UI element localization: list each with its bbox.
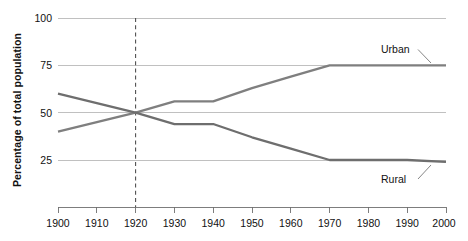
y-tick-label-25: 25 [40, 154, 52, 166]
y-tick-label-75: 75 [40, 59, 52, 71]
x-tick-label-1970: 1970 [318, 217, 342, 229]
series-label-urban: Urban [381, 43, 410, 55]
x-tick-label-1940: 1940 [202, 217, 226, 229]
chart-background [0, 0, 468, 241]
x-tick-label-1960: 1960 [279, 217, 303, 229]
x-tick-label-2000: 2000 [432, 217, 456, 229]
x-tick-label-1950: 1950 [240, 217, 264, 229]
urban-rural-line-chart: Percentage of total population 100 75 50… [0, 0, 468, 241]
series-label-rural: Rural [381, 173, 406, 185]
x-tick-label-1980: 1980 [357, 217, 381, 229]
x-tick-label-1900: 1900 [46, 217, 70, 229]
y-tick-label-100: 100 [34, 12, 52, 24]
x-tick-label-1910: 1910 [85, 217, 109, 229]
x-tick-label-1990: 1990 [396, 217, 420, 229]
y-axis-title-group: Percentage of total population [11, 33, 23, 187]
chart-figure: Percentage of total population 100 75 50… [0, 0, 468, 241]
y-tick-label-50: 50 [40, 107, 52, 119]
y-axis-title: Percentage of total population [11, 33, 23, 187]
x-tick-label-1930: 1930 [163, 217, 187, 229]
x-tick-label-1920: 1920 [124, 217, 148, 229]
